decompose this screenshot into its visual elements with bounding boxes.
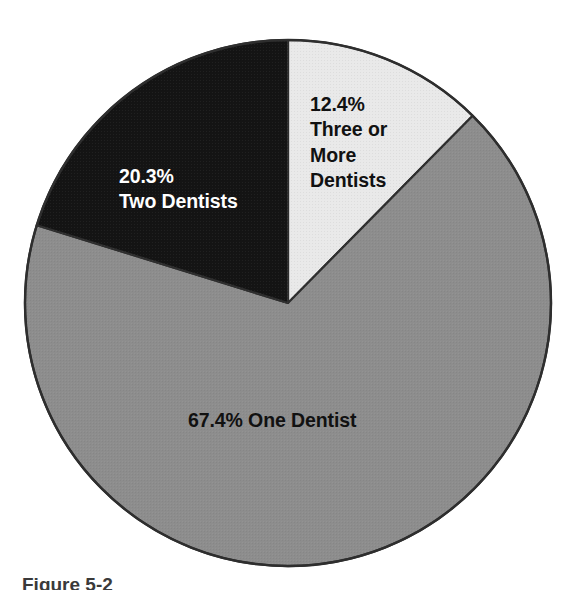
pie-chart-figure: 12.4% Three or More Dentists 20.3% Two D… [0, 0, 570, 590]
pie-texture-overlay [26, 41, 550, 565]
pie-chart-canvas [0, 0, 570, 590]
figure-caption: Figure 5-2 [22, 575, 113, 590]
